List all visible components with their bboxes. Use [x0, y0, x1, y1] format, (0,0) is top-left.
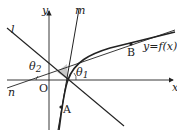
point-b-label: B [127, 46, 135, 59]
curve-label: y=f(x) [142, 40, 177, 53]
line-n-label: n [8, 86, 15, 99]
line-l-label: l [11, 23, 15, 36]
theta1-label: θ1 [76, 66, 88, 80]
origin-label: O [39, 82, 48, 95]
y-axis-label: y [41, 4, 49, 17]
theta2-label: θ2 [29, 60, 42, 74]
line-m-label: m [75, 4, 85, 17]
point-a-label: A [62, 103, 72, 116]
diagram-canvas: y x O l m n A B y=f(x) θ1 θ2 [0, 0, 177, 130]
x-axis-label: x [172, 81, 177, 94]
